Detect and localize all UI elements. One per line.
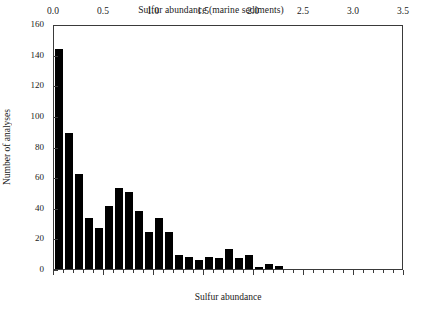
bar	[85, 218, 94, 269]
x-axis-tick-label: 1.5	[188, 6, 218, 16]
bar	[235, 258, 244, 269]
y-axis-tick-label: 100	[0, 111, 44, 121]
y-axis-tick-label: 140	[0, 50, 44, 60]
bar	[225, 249, 234, 269]
x-axis-minor-tick	[63, 270, 64, 273]
bar	[175, 255, 184, 269]
x-axis-minor-tick	[123, 270, 124, 273]
x-axis-tick	[103, 270, 104, 275]
x-axis-tick-label: 3.0	[338, 6, 368, 16]
x-axis-tick-label: 0.0	[38, 6, 68, 16]
x-axis-minor-tick	[93, 270, 94, 273]
x-axis-label: Sulfur abundance	[53, 292, 403, 302]
x-axis-tick-label: 2.5	[288, 6, 318, 16]
x-axis-minor-tick	[373, 270, 374, 273]
x-axis-tick-label: 2.0	[238, 6, 268, 16]
y-axis-tick	[53, 148, 58, 149]
x-axis-minor-tick	[273, 270, 274, 273]
x-axis-tick	[53, 270, 54, 275]
x-axis-minor-tick	[133, 270, 134, 273]
bar	[115, 188, 124, 269]
x-axis-minor-tick	[363, 270, 364, 273]
y-axis-tick-label: 160	[0, 19, 44, 29]
x-axis-minor-tick	[173, 270, 174, 273]
bar	[95, 228, 104, 269]
y-axis-tick-label: 20	[0, 233, 44, 243]
y-axis-tick	[53, 56, 58, 57]
y-axis-tick-label: 60	[0, 172, 44, 182]
bar	[75, 174, 84, 269]
x-axis-minor-tick	[183, 270, 184, 273]
x-axis-minor-tick	[323, 270, 324, 273]
bar	[265, 264, 274, 269]
x-axis-tick	[153, 270, 154, 275]
x-axis-minor-tick	[243, 270, 244, 273]
x-axis-minor-tick	[163, 270, 164, 273]
bar	[195, 260, 204, 269]
x-axis-minor-tick	[193, 270, 194, 273]
bar	[205, 257, 214, 269]
x-axis-minor-tick	[213, 270, 214, 273]
bar	[245, 255, 254, 269]
y-axis-tick	[53, 86, 58, 87]
y-axis-tick-label: 80	[0, 142, 44, 152]
x-axis-minor-tick	[113, 270, 114, 273]
bar	[165, 232, 174, 269]
bar	[155, 218, 164, 269]
bar	[65, 133, 74, 269]
bar	[185, 257, 194, 269]
y-axis-tick-label: 120	[0, 80, 44, 90]
bar	[145, 232, 154, 269]
x-axis-minor-tick	[313, 270, 314, 273]
bar	[105, 206, 114, 269]
x-axis-minor-tick	[383, 270, 384, 273]
y-axis-tick	[53, 209, 58, 210]
x-axis-tick	[253, 270, 254, 275]
x-axis-minor-tick	[73, 270, 74, 273]
y-axis-tick-label: 40	[0, 203, 44, 213]
histogram-figure: Sulfur abundance (marine sediments) Numb…	[0, 0, 422, 322]
x-axis-minor-tick	[263, 270, 264, 273]
x-axis-minor-tick	[233, 270, 234, 273]
plot-area	[53, 25, 403, 270]
x-axis-tick	[303, 270, 304, 275]
bar	[55, 49, 64, 270]
x-axis-minor-tick	[333, 270, 334, 273]
x-axis-tick	[353, 270, 354, 275]
bar	[135, 211, 144, 269]
y-axis-tick	[53, 117, 58, 118]
x-axis-minor-tick	[283, 270, 284, 273]
bar	[215, 258, 224, 269]
y-axis-tick	[53, 239, 58, 240]
y-axis-tick-label: 0	[0, 264, 44, 274]
x-axis-minor-tick	[393, 270, 394, 273]
x-axis-tick	[203, 270, 204, 275]
x-axis-tick-label: 0.5	[88, 6, 118, 16]
x-axis-minor-tick	[223, 270, 224, 273]
bar	[255, 267, 264, 269]
x-axis-tick-label: 3.5	[388, 6, 418, 16]
x-axis-minor-tick	[293, 270, 294, 273]
x-axis-tick-label: 1.0	[138, 6, 168, 16]
y-axis-tick	[53, 178, 58, 179]
x-axis-minor-tick	[343, 270, 344, 273]
x-axis-minor-tick	[143, 270, 144, 273]
y-axis-tick	[53, 25, 58, 26]
x-axis-tick	[403, 270, 404, 275]
x-axis-minor-tick	[83, 270, 84, 273]
bar	[275, 266, 284, 269]
bar	[125, 192, 134, 269]
bars-layer	[54, 26, 402, 269]
